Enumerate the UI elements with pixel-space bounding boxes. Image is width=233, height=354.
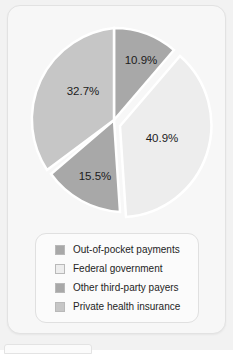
- pie-slice-value-out-of-pocket-payments: 10.9%: [125, 54, 158, 66]
- legend-item-private-health-insurance[interactable]: Private health insurance: [36, 297, 198, 316]
- chart-legend: Out-of-pocket payments Federal governmen…: [35, 233, 199, 323]
- legend-item-federal-government[interactable]: Federal government: [36, 259, 198, 278]
- legend-item-label: Other third-party payers: [73, 283, 179, 293]
- legend-swatch-icon: [55, 245, 65, 255]
- legend-swatch-icon: [55, 264, 65, 274]
- pie-slice-value-other-third-party-payers: 15.5%: [79, 170, 112, 182]
- pie-slice-value-federal-government: 40.9%: [146, 132, 179, 144]
- legend-item-out-of-pocket-payments[interactable]: Out-of-pocket payments: [36, 240, 198, 259]
- legend-swatch-icon: [55, 302, 65, 312]
- legend-item-label: Federal government: [73, 264, 163, 274]
- pie-chart: 10.9% 40.9% 15.5% 32.7%: [19, 12, 216, 228]
- pie-slice-value-private-health-insurance: 32.7%: [67, 85, 100, 97]
- chart-card: 10.9% 40.9% 15.5% 32.7% Out-of-pocket pa…: [7, 5, 226, 334]
- legend-swatch-icon: [55, 283, 65, 293]
- legend-item-label: Private health insurance: [73, 302, 180, 312]
- legend-item-label: Out-of-pocket payments: [73, 245, 180, 255]
- pie-svg: 10.9% 40.9% 15.5% 32.7%: [19, 12, 216, 228]
- bottom-partial-element: [4, 344, 92, 354]
- legend-item-other-third-party-payers[interactable]: Other third-party payers: [36, 278, 198, 297]
